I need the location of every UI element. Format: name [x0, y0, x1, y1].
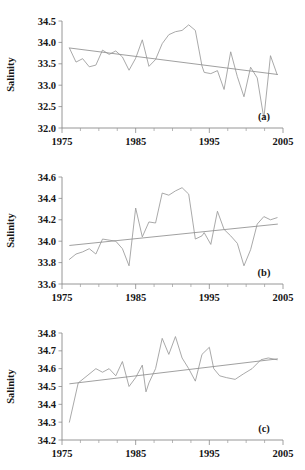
axis-lines: [62, 21, 283, 128]
y-tick-label: 33.8: [38, 257, 56, 268]
y-tick-label: 34.5: [38, 16, 56, 27]
data-series-line: [69, 337, 277, 423]
y-axis-title: Salinity: [5, 57, 16, 92]
y-tick-label: 34.2: [38, 435, 56, 446]
x-tick-label: 2005: [273, 448, 294, 459]
y-tick-label: 34.3: [38, 417, 56, 428]
chart-svg-a: 32.032.533.033.534.034.51975198519952005…: [0, 0, 305, 156]
x-tick-label: 1985: [125, 292, 146, 303]
y-tick-label: 34.6: [38, 363, 56, 374]
panel-tag: (b): [258, 267, 271, 279]
y-tick-label: 34.5: [38, 381, 56, 392]
x-tick-label: 1995: [199, 448, 220, 459]
y-tick-label: 34.6: [38, 172, 56, 183]
data-series-line: [69, 188, 277, 266]
x-tick-label: 1985: [125, 136, 146, 147]
y-tick-label: 34.2: [38, 214, 56, 225]
y-tick-label: 34.4: [38, 193, 57, 204]
chart-svg-b: 33.633.834.034.234.434.61975198519952005…: [0, 156, 305, 312]
chart-svg-c: 34.234.334.434.534.634.734.8197519851995…: [0, 312, 305, 468]
y-tick-label: 32.0: [38, 123, 56, 134]
x-tick-label: 2005: [273, 292, 294, 303]
y-tick-label: 34.7: [38, 345, 56, 356]
x-tick-label: 1985: [125, 448, 146, 459]
y-tick-label: 33.6: [38, 279, 56, 290]
y-tick-label: 33.5: [38, 58, 56, 69]
y-axis-title: Salinity: [5, 369, 16, 404]
trend-line: [69, 224, 277, 245]
trend-line: [69, 48, 277, 75]
x-tick-label: 1975: [52, 448, 73, 459]
chart-panel-a: 32.032.533.033.534.034.51975198519952005…: [0, 0, 305, 156]
chart-panel-c: 34.234.334.434.534.634.734.8197519851995…: [0, 312, 305, 468]
y-tick-label: 34.0: [38, 236, 56, 247]
data-series-line: [69, 25, 277, 118]
x-tick-label: 1975: [52, 292, 73, 303]
panel-tag: (c): [258, 423, 270, 435]
x-tick-label: 1975: [52, 136, 73, 147]
y-tick-label: 32.5: [38, 101, 56, 112]
x-tick-label: 2005: [273, 136, 294, 147]
salinity-trend-figure: 32.032.533.033.534.034.51975198519952005…: [0, 0, 305, 470]
panel-tag: (a): [258, 111, 271, 123]
axis-lines: [62, 333, 283, 440]
y-tick-label: 34.8: [38, 328, 56, 339]
y-tick-label: 33.0: [38, 80, 56, 91]
x-tick-label: 1995: [199, 292, 220, 303]
y-tick-label: 34.4: [38, 399, 57, 410]
y-axis-title: Salinity: [5, 213, 16, 248]
chart-panel-b: 33.633.834.034.234.434.61975198519952005…: [0, 156, 305, 312]
x-tick-label: 1995: [199, 136, 220, 147]
y-tick-label: 34.0: [38, 37, 56, 48]
